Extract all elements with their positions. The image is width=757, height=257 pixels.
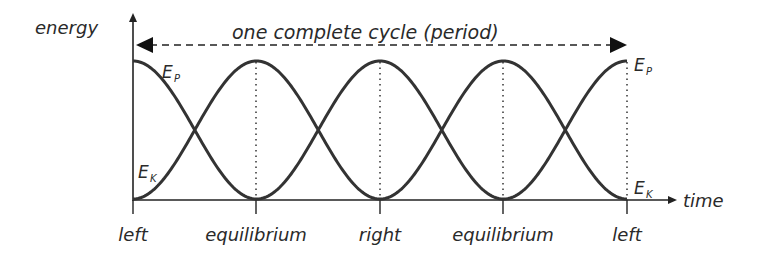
x-ticks [133,200,627,214]
period-label: one complete cycle (period) [232,21,499,43]
ek-label-left: E K [138,162,158,184]
tick-label-equilibrium-1: equilibrium [205,224,307,245]
x-axis-label: time [683,190,724,211]
tick-label-left-end: left [612,224,642,245]
tick-label-left-start: left [118,224,148,245]
energy-time-diagram: energy time one complete cycle (period) … [0,0,757,257]
x-axis-arrow-icon [668,196,677,204]
svg-text:E: E [634,55,645,75]
svg-text:E: E [634,178,645,198]
tick-label-right: right [359,224,402,245]
svg-text:P: P [174,73,181,84]
period-arrow-left-icon [136,37,153,53]
y-axis-arrow-icon [129,13,137,22]
ep-label-left: E P [162,62,181,84]
ek-label-right: E K [634,178,654,200]
svg-text:E: E [138,162,149,182]
svg-text:E: E [162,62,173,82]
period-arrow-right-icon [610,37,627,53]
svg-text:K: K [646,189,654,200]
ep-label-right: E P [634,55,653,77]
svg-text:P: P [646,66,653,77]
tick-label-equilibrium-2: equilibrium [452,224,554,245]
svg-text:K: K [150,173,158,184]
y-axis-label: energy [35,17,98,38]
